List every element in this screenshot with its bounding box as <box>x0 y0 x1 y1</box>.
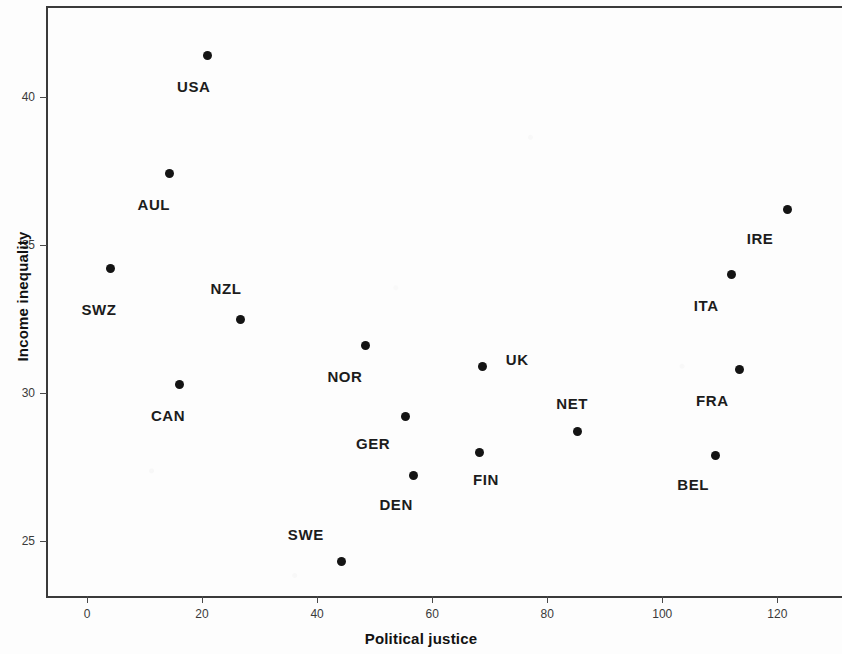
plot-area: 02040608010012025303540USAAULSWZNZLCANNO… <box>0 0 842 654</box>
data-point-label: FRA <box>696 392 729 409</box>
data-point-label: NOR <box>327 367 362 384</box>
x-axis-tick <box>202 596 203 603</box>
x-axis-tick <box>317 596 318 603</box>
data-point <box>409 471 418 480</box>
y-axis-title: Income inequality <box>14 187 31 407</box>
y-axis-tick <box>40 97 47 98</box>
data-point-label: UK <box>506 351 529 368</box>
y-axis-tick-label: 40 <box>5 90 35 104</box>
data-point <box>727 270 736 279</box>
y-axis-tick-label: 25 <box>5 534 35 548</box>
data-point-label: USA <box>177 77 210 94</box>
x-axis-tick-label: 20 <box>195 607 208 621</box>
x-axis-tick <box>662 596 663 603</box>
x-axis-tick-label: 120 <box>767 607 787 621</box>
data-point <box>165 169 174 178</box>
data-point <box>711 451 720 460</box>
data-point-label: SWZ <box>81 300 116 317</box>
data-point <box>735 365 744 374</box>
data-point <box>203 51 212 60</box>
x-axis-tick-label: 60 <box>425 607 438 621</box>
y-axis-tick <box>40 541 47 542</box>
y-axis-tick <box>40 393 47 394</box>
data-point-label: BEL <box>677 476 709 493</box>
x-axis-tick <box>87 596 88 603</box>
data-point <box>401 412 410 421</box>
data-point-label: FIN <box>473 471 499 488</box>
data-point-label: DEN <box>379 495 412 512</box>
data-point <box>783 205 792 214</box>
data-point-label: ITA <box>694 296 719 313</box>
x-axis-title: Political justice <box>0 630 842 647</box>
data-point-label: NET <box>556 395 588 412</box>
y-axis-tick <box>40 245 47 246</box>
data-point <box>478 362 487 371</box>
data-point-label: AUL <box>138 195 171 212</box>
data-point-label: GER <box>356 434 390 451</box>
data-point <box>337 557 346 566</box>
data-point-label: IRE <box>747 230 774 247</box>
data-point <box>475 448 484 457</box>
data-point <box>106 264 115 273</box>
x-axis-tick <box>432 596 433 603</box>
data-point-label: SWE <box>288 525 324 542</box>
data-point <box>175 380 184 389</box>
x-axis-tick-label: 0 <box>84 607 91 621</box>
x-axis-tick <box>547 596 548 603</box>
scatter-plot-figure: 02040608010012025303540USAAULSWZNZLCANNO… <box>0 0 842 654</box>
data-point <box>361 341 370 350</box>
x-axis-tick-label: 80 <box>541 607 554 621</box>
data-point-label: NZL <box>211 280 242 297</box>
data-point <box>573 427 582 436</box>
x-axis-tick-label: 40 <box>310 607 323 621</box>
data-point-label: CAN <box>151 407 185 424</box>
data-point <box>236 315 245 324</box>
x-axis-tick-label: 100 <box>652 607 672 621</box>
x-axis-tick <box>777 596 778 603</box>
